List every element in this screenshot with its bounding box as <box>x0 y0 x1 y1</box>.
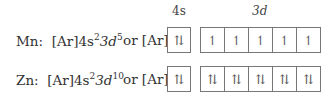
or-text: or [Ar] <box>123 32 169 48</box>
orbital-3d: ↿ <box>201 28 225 52</box>
orbital-3d: ⇅ <box>201 67 225 91</box>
orbital-4s: ⇅ <box>167 27 191 53</box>
orbital-3d: ⇅ <box>249 67 273 91</box>
orbital-4s: ⇅ <box>167 66 191 92</box>
orbital-3d: ↿ <box>273 28 297 52</box>
or-text: or [Ar] <box>123 71 169 87</box>
orbitals-3d: ↿ ↿ ↿ ↿ ↿ <box>200 27 321 53</box>
orbital-3d: ↿ <box>249 28 273 52</box>
header-4s: 4s <box>172 4 186 18</box>
orbital-3d: ⇅ <box>273 67 297 91</box>
orbitals-3d: ⇅ ⇅ ⇅ ⇅ ⇅ <box>200 66 321 92</box>
row-mn: Mn: [Ar]4s23d5 or [Ar] ⇅ ↿ ↿ ↿ ↿ ↿ <box>0 27 334 53</box>
header-3d: 3d <box>252 4 267 18</box>
orbital-3d: ⇅ <box>225 67 249 91</box>
row-zn: Zn: [Ar]4s23d10 or [Ar] ⇅ ⇅ ⇅ ⇅ ⇅ ⇅ <box>0 66 334 92</box>
orbital-3d: ⇅ <box>297 67 320 91</box>
config-label: Mn: [Ar]4s23d5 <box>16 32 123 49</box>
orbital-3d: ↿ <box>225 28 249 52</box>
orbital-3d: ↿ <box>297 28 320 52</box>
config-label: Zn: [Ar]4s23d10 <box>16 71 124 88</box>
